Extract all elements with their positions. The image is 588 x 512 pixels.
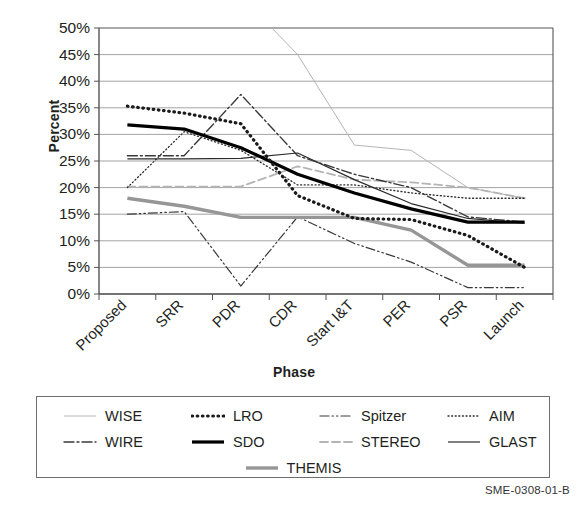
legend: WISELROSpitzerAIMWIRESDOSTEREOGLASTTHEMI… <box>36 396 550 478</box>
legend-item-stereo[interactable]: STEREO <box>293 435 421 450</box>
x-tick-label: PDR <box>209 296 244 331</box>
x-tick-label: SRR <box>152 296 187 331</box>
legend-item-themis[interactable]: THEMIS <box>165 461 421 476</box>
legend-item-aim[interactable]: AIM <box>421 409 549 424</box>
legend-label: THEMIS <box>287 461 342 476</box>
y-tick-label: 35% <box>59 99 90 116</box>
x-tick-label: Proposed <box>72 296 129 353</box>
svg-text:SRR: SRR <box>152 296 187 331</box>
y-tick-label: 30% <box>59 125 90 142</box>
legend-label: SDO <box>233 435 264 450</box>
legend-label: WIRE <box>105 435 143 450</box>
y-tick-label: 0% <box>68 285 91 302</box>
legend-swatch-stereo <box>319 436 353 448</box>
plot-area: 0%5%10%15%20%25%30%35%40%45%50%ProposedS… <box>0 0 588 400</box>
y-axis-title: Percent <box>46 66 62 186</box>
legend-swatch-aim <box>447 410 481 422</box>
svg-text:PSR: PSR <box>436 296 470 330</box>
legend-swatch-glast <box>447 436 481 448</box>
legend-label: AIM <box>489 409 515 424</box>
series-layer <box>127 0 524 288</box>
y-tick-label: 40% <box>59 72 90 89</box>
x-tick-label: PER <box>379 296 413 330</box>
legend-item-sdo[interactable]: SDO <box>165 435 293 450</box>
figure-root: 0%5%10%15%20%25%30%35%40%45%50%ProposedS… <box>0 0 588 512</box>
x-tick-label: PSR <box>436 296 470 330</box>
y-tick-label: 45% <box>59 46 90 63</box>
legend-label: WISE <box>105 409 142 424</box>
legend-swatch-themis <box>245 462 279 474</box>
x-axis-title: Phase <box>0 364 588 380</box>
legend-item-lro[interactable]: LRO <box>165 409 293 424</box>
legend-label: GLAST <box>489 435 537 450</box>
legend-item-spitzer[interactable]: Spitzer <box>293 409 421 424</box>
figure-caption: SME-0308-01-B <box>485 484 570 496</box>
legend-swatch-sdo <box>191 436 225 448</box>
series-line-themis <box>127 198 524 265</box>
legend-swatch-wire <box>63 436 97 448</box>
legend-swatch-wise <box>63 410 97 422</box>
legend-item-wise[interactable]: WISE <box>37 409 165 424</box>
svg-text:Proposed: Proposed <box>72 296 129 353</box>
series-line-wise <box>221 0 525 198</box>
legend-label: LRO <box>233 409 263 424</box>
legend-label: STEREO <box>361 435 421 450</box>
legend-item-wire[interactable]: WIRE <box>37 435 165 450</box>
legend-swatch-lro <box>191 410 225 422</box>
y-tick-label: 20% <box>59 179 90 196</box>
y-tick-label: 5% <box>68 258 91 275</box>
y-tick-label: 10% <box>59 232 90 249</box>
svg-text:PDR: PDR <box>209 296 244 331</box>
svg-text:Launch: Launch <box>480 296 527 343</box>
line-chart: 0%5%10%15%20%25%30%35%40%45%50%ProposedS… <box>0 0 588 400</box>
y-tick-label: 15% <box>59 205 90 222</box>
legend-label: Spitzer <box>361 409 406 424</box>
legend-swatch-spitzer <box>319 410 353 422</box>
legend-item-glast[interactable]: GLAST <box>421 435 549 450</box>
svg-text:CDR: CDR <box>265 296 300 331</box>
svg-text:PER: PER <box>379 296 413 330</box>
svg-text:Start I&T: Start I&T <box>303 296 357 350</box>
x-tick-label: Start I&T <box>303 296 357 350</box>
x-tick-label: Launch <box>480 296 527 343</box>
x-tick-label: CDR <box>265 296 300 331</box>
y-tick-label: 50% <box>59 19 90 36</box>
y-tick-label: 25% <box>59 152 90 169</box>
